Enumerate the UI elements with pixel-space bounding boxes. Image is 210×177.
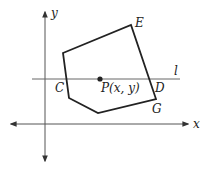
vertex-e-label: E: [134, 16, 144, 30]
point-p-label: P(x, y): [100, 81, 140, 95]
y-axis-label: y: [50, 6, 58, 20]
vertex-d-label: D: [154, 81, 165, 95]
diagram-canvas: y x l P(x, y) C D E G: [0, 0, 210, 177]
x-axis-label: x: [193, 117, 200, 131]
line-l-label: l: [174, 64, 178, 78]
polygon-region: [63, 25, 156, 113]
vertex-c-label: C: [55, 81, 64, 95]
vertex-g-label: G: [152, 102, 162, 116]
